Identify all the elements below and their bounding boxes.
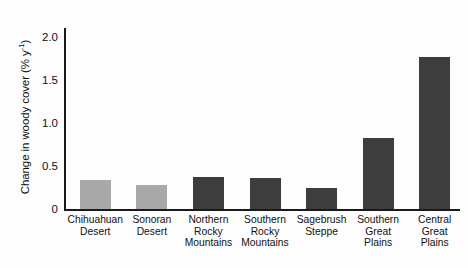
x-axis-line (64, 209, 460, 211)
x-tick-label-line: Plains (402, 237, 467, 249)
x-tick-label-line: Sagebrush (289, 214, 354, 226)
x-tick-label-line: Steppe (289, 226, 354, 238)
bar-5 (363, 138, 394, 209)
x-tick-label-line: Mountains (233, 237, 298, 249)
x-tick-label-6: CentralGreatPlains (402, 214, 467, 249)
x-tick-label-line: Southern (346, 214, 411, 226)
y-axis-line (64, 28, 66, 211)
x-tick-label-line: Rocky (176, 226, 241, 238)
y-tick-0: 0 (26, 203, 58, 215)
x-tick-label-line: Northern (176, 214, 241, 226)
x-tick-label-line: Chihuahuan (63, 214, 128, 226)
y-tick-1.5: 1.5 (26, 74, 58, 86)
y-axis-title-exponent: -1 (17, 44, 26, 51)
bar-6 (419, 57, 450, 209)
x-axis-tick-labels: ChihuahuanDesertSonoranDesertNorthernRoc… (64, 214, 460, 262)
x-tick-label-line: Southern (233, 214, 298, 226)
y-tick-2.0: 2.0 (26, 31, 58, 43)
x-tick-label-2: NorthernRockyMountains (176, 214, 241, 249)
x-tick-label-line: Rocky (233, 226, 298, 238)
x-tick-label-1: SonoranDesert (120, 214, 185, 237)
x-tick-label-line: Desert (63, 226, 128, 238)
bar-1 (136, 185, 167, 209)
x-tick-label-5: SouthernGreatPlains (346, 214, 411, 249)
woody-cover-bar-chart: Change in woody cover (% y-1) 00.51.01.5… (0, 0, 468, 268)
x-tick-label-line: Great (402, 226, 467, 238)
x-tick-label-line: Desert (120, 226, 185, 238)
x-tick-label-line: Great (346, 226, 411, 238)
y-tick-0.5: 0.5 (26, 160, 58, 172)
bar-3 (250, 178, 281, 209)
plot-area (64, 28, 460, 211)
x-tick-label-line: Sonoran (120, 214, 185, 226)
bar-0 (80, 180, 111, 209)
x-tick-label-3: SouthernRockyMountains (233, 214, 298, 249)
x-tick-label-line: Central (402, 214, 467, 226)
x-tick-label-line: Mountains (176, 237, 241, 249)
x-tick-label-4: SagebrushSteppe (289, 214, 354, 237)
x-tick-label-line: Plains (346, 237, 411, 249)
y-axis-tick-labels: 00.51.01.52.0 (26, 0, 58, 268)
bar-2 (193, 177, 224, 209)
bar-4 (306, 188, 337, 209)
y-tick-1.0: 1.0 (26, 117, 58, 129)
x-tick-label-0: ChihuahuanDesert (63, 214, 128, 237)
